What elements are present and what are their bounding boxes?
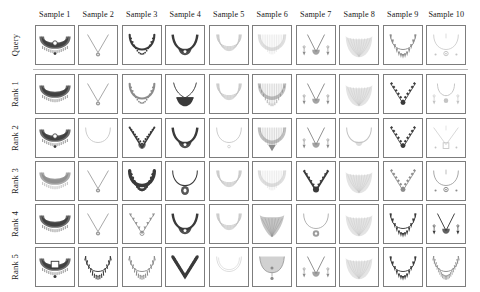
grid-cell[interactable]: [381, 245, 425, 288]
thumbnail-beaded-u-necklace[interactable]: [122, 74, 162, 114]
grid-cell[interactable]: [77, 22, 121, 68]
thumbnail-plain-thin-chain-necklace[interactable]: [209, 118, 249, 158]
grid-cell[interactable]: [120, 202, 164, 245]
grid-cell[interactable]: [77, 245, 121, 288]
thumbnail-necklace-with-earrings-set[interactable]: [296, 74, 336, 114]
thumbnail-beaded-u-necklace[interactable]: [122, 25, 162, 65]
grid-cell[interactable]: [425, 22, 469, 68]
grid-cell[interactable]: [77, 72, 121, 116]
grid-cell[interactable]: [425, 72, 469, 116]
thumbnail-fringed-u-necklace[interactable]: [122, 247, 162, 287]
thumbnail-scalloped-necklace-with-drops[interactable]: [122, 204, 162, 244]
grid-cell[interactable]: [207, 72, 251, 116]
grid-cell[interactable]: [425, 245, 469, 288]
grid-cell[interactable]: [33, 202, 77, 245]
thumbnail-gemstone-v-necklace[interactable]: [383, 118, 423, 158]
thumbnail-thick-beaded-v-necklace[interactable]: [165, 247, 205, 287]
thumbnail-broad-filigree-bib-necklace[interactable]: [339, 247, 379, 287]
thumbnail-u-necklace-with-pendant-and-studs[interactable]: [426, 161, 466, 201]
grid-cell[interactable]: [251, 159, 295, 202]
grid-cell[interactable]: [120, 159, 164, 202]
grid-cell[interactable]: [425, 159, 469, 202]
thumbnail-dark-v-necklace-with-center-stone[interactable]: [165, 204, 205, 244]
grid-cell[interactable]: [294, 245, 338, 288]
grid-cell[interactable]: [164, 22, 208, 68]
thumbnail-thin-chain-necklace-with-round-pendant[interactable]: [78, 25, 118, 65]
thumbnail-necklace-with-large-oval-pendant[interactable]: [165, 161, 205, 201]
thumbnail-beaded-v-necklace-with-pendant[interactable]: [383, 74, 423, 114]
thumbnail-black-beaded-necklace-with-pendant[interactable]: [122, 118, 162, 158]
grid-cell[interactable]: [77, 159, 121, 202]
thumbnail-wide-choker-with-square-centerpiece[interactable]: [35, 247, 75, 287]
thumbnail-broad-filigree-bib-necklace[interactable]: [339, 74, 379, 114]
grid-cell[interactable]: [338, 72, 382, 116]
thumbnail-multi-strand-layered-necklace[interactable]: [209, 161, 249, 201]
grid-cell[interactable]: [164, 245, 208, 288]
thumbnail-layered-u-collar[interactable]: [209, 25, 249, 65]
thumbnail-plain-u-chain-necklace[interactable]: [78, 118, 118, 158]
grid-cell[interactable]: [207, 159, 251, 202]
grid-cell[interactable]: [294, 22, 338, 68]
grid-cell[interactable]: [425, 116, 469, 159]
grid-cell[interactable]: [207, 245, 251, 288]
grid-cell[interactable]: [338, 159, 382, 202]
thumbnail-collar-with-drop-pendant[interactable]: [252, 247, 292, 287]
grid-cell[interactable]: [164, 202, 208, 245]
thumbnail-wide-collar-with-pendant[interactable]: [252, 118, 292, 158]
grid-cell[interactable]: [251, 116, 295, 159]
grid-cell[interactable]: [381, 72, 425, 116]
grid-cell[interactable]: [120, 116, 164, 159]
thumbnail-fringed-u-necklace[interactable]: [78, 247, 118, 287]
grid-cell[interactable]: [381, 159, 425, 202]
grid-cell[interactable]: [294, 202, 338, 245]
thumbnail-beaded-v-necklace-with-pendant[interactable]: [383, 161, 423, 201]
grid-cell[interactable]: [338, 245, 382, 288]
thumbnail-broad-filigree-bib-necklace[interactable]: [339, 25, 379, 65]
thumbnail-solid-dark-bib-necklace[interactable]: [165, 74, 205, 114]
thumbnail-large-beaded-u-necklace[interactable]: [383, 247, 423, 287]
thumbnail-thin-chain-necklace-with-round-pendant[interactable]: [78, 204, 118, 244]
thumbnail-broad-filigree-bib-necklace[interactable]: [339, 161, 379, 201]
grid-cell[interactable]: [251, 245, 295, 288]
thumbnail-wide-choker-necklace-with-pendant[interactable]: [35, 25, 75, 65]
grid-cell[interactable]: [33, 22, 77, 68]
thumbnail-v-necklace-with-earrings-set[interactable]: [426, 204, 466, 244]
thumbnail-thin-v-chain-with-pendant-and-studs[interactable]: [426, 25, 466, 65]
thumbnail-wide-choker-necklace-with-fringe[interactable]: [35, 204, 75, 244]
thumbnail-large-beaded-u-necklace[interactable]: [383, 204, 423, 244]
thumbnail-dense-beaded-u-necklace[interactable]: [426, 247, 466, 287]
thumbnail-wide-mesh-u-collar[interactable]: [252, 25, 292, 65]
thumbnail-thin-v-chain-with-earrings[interactable]: [426, 74, 466, 114]
thumbnail-thin-chain-necklace-with-round-pendant[interactable]: [78, 161, 118, 201]
grid-cell[interactable]: [294, 159, 338, 202]
grid-cell[interactable]: [33, 72, 77, 116]
grid-cell[interactable]: [164, 159, 208, 202]
grid-cell[interactable]: [120, 245, 164, 288]
thumbnail-thin-chain-with-large-pendant[interactable]: [296, 204, 336, 244]
grid-cell[interactable]: [294, 72, 338, 116]
thumbnail-layered-u-collar[interactable]: [209, 74, 249, 114]
thumbnail-wide-mesh-u-collar[interactable]: [252, 161, 292, 201]
grid-cell[interactable]: [207, 22, 251, 68]
thumbnail-u-necklace-with-small-pendant[interactable]: [339, 118, 379, 158]
grid-cell[interactable]: [164, 72, 208, 116]
thumbnail-triangular-bib-necklace[interactable]: [252, 204, 292, 244]
thumbnail-v-necklace-with-center-stone[interactable]: [165, 118, 205, 158]
thumbnail-necklace-with-earrings-set[interactable]: [296, 25, 336, 65]
grid-cell[interactable]: [120, 22, 164, 68]
grid-cell[interactable]: [251, 202, 295, 245]
grid-cell[interactable]: [33, 245, 77, 288]
grid-cell[interactable]: [77, 202, 121, 245]
grid-cell[interactable]: [381, 202, 425, 245]
grid-cell[interactable]: [338, 202, 382, 245]
grid-cell[interactable]: [207, 202, 251, 245]
grid-cell[interactable]: [338, 116, 382, 159]
grid-cell[interactable]: [77, 116, 121, 159]
grid-cell[interactable]: [251, 22, 295, 68]
thumbnail-broad-filigree-bib-necklace[interactable]: [339, 204, 379, 244]
grid-cell[interactable]: [251, 72, 295, 116]
thumbnail-wide-choker-necklace-with-pendant[interactable]: [35, 118, 75, 158]
thumbnail-necklace-with-earrings-set[interactable]: [296, 118, 336, 158]
thumbnail-faint-plain-necklace[interactable]: [209, 247, 249, 287]
thumbnail-wide-choker-mesh-necklace[interactable]: [35, 161, 75, 201]
